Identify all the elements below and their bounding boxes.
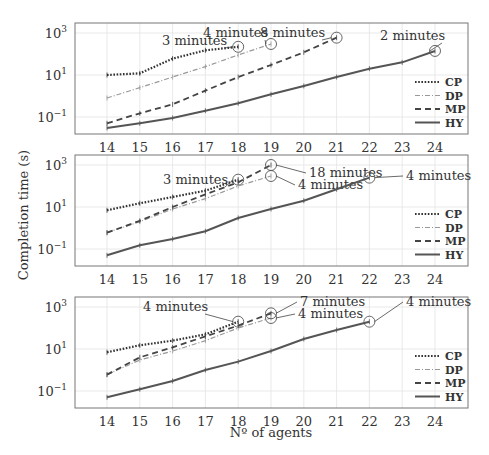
series-line-mp — [107, 313, 271, 374]
x-tick-label: 20 — [296, 272, 313, 287]
y-tick-label: 101 — [45, 66, 67, 83]
x-tick-label: 19 — [263, 140, 280, 155]
y-tick-label: 103 — [45, 24, 68, 41]
legend: CPDPMPHY — [415, 208, 465, 262]
legend-label-dp: DP — [445, 364, 463, 377]
y-tick-label: 10−1 — [37, 108, 67, 125]
x-tick-label: 22 — [361, 272, 378, 287]
x-tick-label: 19 — [263, 272, 280, 287]
y-tick-label: 10−1 — [37, 240, 67, 257]
timeout-annotation: 4 minutes — [406, 294, 471, 309]
x-tick-label: 16 — [164, 414, 181, 429]
legend-label-hy: HY — [445, 391, 463, 404]
x-tick-label: 21 — [328, 272, 345, 287]
legend-label-hy: HY — [445, 249, 463, 262]
timeout-annotation: 4 minutes — [203, 25, 268, 40]
legend-label-hy: HY — [445, 117, 463, 130]
legend-label-dp: DP — [445, 222, 463, 235]
y-tick-label: 101 — [45, 198, 67, 215]
timeout-annotation: 4 minutes — [143, 299, 208, 314]
chart-panel-2: 10310110−114151617181920212223243 minute… — [37, 155, 471, 287]
legend-label-cp: CP — [445, 350, 462, 363]
x-tick-label: 22 — [361, 140, 378, 155]
legend-label-cp: CP — [445, 76, 462, 89]
x-tick-label: 24 — [427, 272, 444, 287]
y-axis-label: Completion time (s) — [16, 150, 31, 280]
figure: 10310110−114151617181920212223243 minute… — [0, 0, 489, 455]
x-tick-label: 17 — [197, 272, 214, 287]
timeout-annotation: 8 minutes — [260, 25, 325, 40]
x-tick-label: 18 — [230, 140, 247, 155]
y-tick-label: 103 — [45, 156, 68, 173]
series-line-mp — [107, 38, 337, 124]
timeout-annotation: 2 minutes — [380, 28, 445, 43]
x-tick-label: 14 — [99, 272, 116, 287]
x-tick-label: 22 — [361, 414, 378, 429]
x-axis-label: Nº of agents — [230, 425, 312, 440]
timeout-annotation: 4 minutes — [406, 168, 471, 183]
legend-label-dp: DP — [445, 90, 463, 103]
timeout-annotation: 3 minutes — [163, 172, 228, 187]
x-tick-label: 15 — [132, 140, 149, 155]
x-tick-label: 23 — [394, 272, 411, 287]
x-tick-label: 23 — [394, 414, 411, 429]
series-line-dp — [107, 44, 271, 98]
x-tick-label: 15 — [132, 272, 149, 287]
y-tick-label: 103 — [45, 298, 68, 315]
x-tick-label: 20 — [296, 140, 313, 155]
x-tick-label: 14 — [99, 140, 116, 155]
x-tick-label: 15 — [132, 414, 149, 429]
y-tick-label: 101 — [45, 340, 67, 357]
legend-label-cp: CP — [445, 208, 462, 221]
x-tick-label: 21 — [328, 140, 345, 155]
x-tick-label: 24 — [427, 140, 444, 155]
x-tick-label: 17 — [197, 414, 214, 429]
x-tick-label: 17 — [197, 140, 214, 155]
x-tick-label: 14 — [99, 414, 116, 429]
legend-label-mp: MP — [445, 103, 465, 116]
series-line-dp — [107, 318, 271, 375]
legend-label-mp: MP — [445, 235, 465, 248]
x-tick-label: 24 — [427, 414, 444, 429]
timeout-annotation: 7 minutes — [300, 294, 365, 309]
x-tick-label: 16 — [164, 272, 181, 287]
x-tick-label: 16 — [164, 140, 181, 155]
legend: CPDPMPHY — [415, 76, 465, 130]
chart-panel-1: 10310110−114151617181920212223243 minute… — [37, 23, 468, 155]
x-tick-label: 21 — [328, 414, 345, 429]
x-tick-label: 23 — [394, 140, 411, 155]
x-tick-label: 18 — [230, 272, 247, 287]
y-tick-label: 10−1 — [37, 382, 67, 399]
chart-panel-3: 10310110−114151617181920212223244 minute… — [37, 294, 471, 429]
legend-label-mp: MP — [445, 377, 465, 390]
legend: CPDPMPHY — [415, 350, 465, 404]
